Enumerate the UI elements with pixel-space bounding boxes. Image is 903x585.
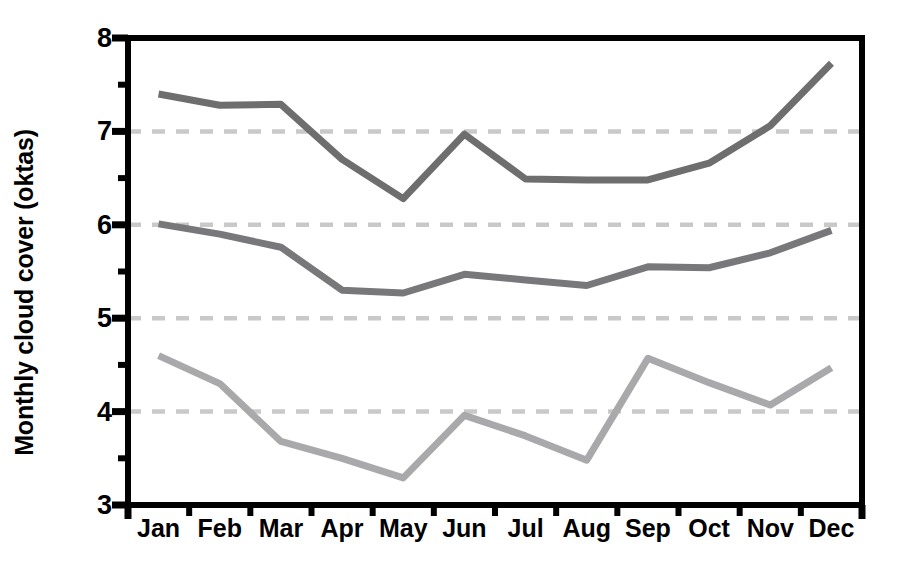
x-tick-label-nov: Nov — [747, 516, 794, 541]
series-line-middle — [159, 224, 832, 293]
x-tick-label-aug: Aug — [562, 516, 611, 541]
x-tick-label-may: May — [379, 516, 428, 541]
x-tick-label-sep: Sep — [625, 516, 671, 541]
chart-figure: Monthly cloud cover (oktas) 345678 JanFe… — [0, 0, 903, 585]
x-tick-label-dec: Dec — [808, 516, 854, 541]
x-tick-label-apr: Apr — [321, 516, 364, 541]
x-tick-label-mar: Mar — [259, 516, 303, 541]
x-tick-label-oct: Oct — [688, 516, 730, 541]
series-line-lower — [159, 356, 832, 478]
x-tick-label-feb: Feb — [198, 516, 242, 541]
x-tick-label-jun: Jun — [442, 516, 486, 541]
gridlines — [128, 131, 862, 411]
x-tick-label-jan: Jan — [137, 516, 180, 541]
plot-area — [0, 0, 903, 585]
x-tick-label-jul: Jul — [508, 516, 544, 541]
